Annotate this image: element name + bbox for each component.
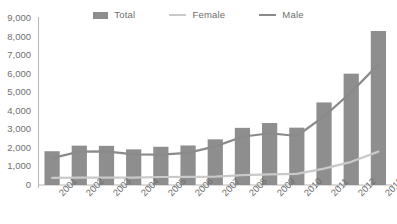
chart-container: Total Female Male 9,0008,0007,0006,0005,… xyxy=(0,0,397,224)
x-tick-label-2005: 2005 xyxy=(166,191,173,198)
x-tick-label-2007: 2007 xyxy=(220,191,227,198)
plot-area: 9,0008,0007,0006,0005,0004,0003,0002,000… xyxy=(0,0,397,224)
x-tick-label-2009: 2009 xyxy=(275,191,282,198)
x-axis: 2001200220032004200520062007200820092010… xyxy=(0,0,397,224)
x-tick-label-2008: 2008 xyxy=(247,191,254,198)
x-tick-label-2013: 2013 xyxy=(383,191,390,198)
x-tick-label-2012: 2012 xyxy=(356,191,363,198)
x-tick-label-2004: 2004 xyxy=(139,191,146,198)
x-tick-label-2001: 2001 xyxy=(57,191,64,198)
x-tick-label-2011: 2011 xyxy=(329,191,336,198)
x-tick-label-2002: 2002 xyxy=(84,191,91,198)
x-tick-label-2003: 2003 xyxy=(111,191,118,198)
x-tick-label-2006: 2006 xyxy=(193,191,200,198)
x-tick-label-2010: 2010 xyxy=(302,191,309,198)
